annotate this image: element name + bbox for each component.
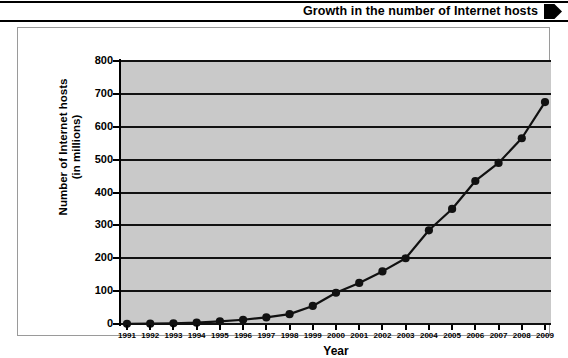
data-point-2001 (355, 279, 363, 287)
x-tick-mark-2003 (405, 325, 407, 330)
data-point-1997 (262, 313, 270, 321)
page-title: Growth in the number of Internet hosts (303, 3, 538, 19)
y-axis-title-line2: (in millions) (70, 57, 83, 237)
y-tick-label-0: 0 (73, 318, 113, 329)
y-tick-label-wrap: 400 (68, 187, 113, 198)
plot-area (121, 61, 551, 324)
y-tick-label-100: 100 (73, 285, 113, 296)
y-axis-title-line1: Number of Internet hosts (57, 57, 70, 237)
x-tick-mark-2007 (498, 325, 500, 330)
chart-title-banner: Growth in the number of Internet hosts (0, 0, 568, 22)
data-point-2009 (541, 98, 549, 106)
y-tick-mark-600 (113, 126, 120, 128)
y-tick-mark-700 (113, 93, 120, 95)
data-point-1996 (239, 316, 247, 324)
x-tick-label-2009: 2009 (528, 331, 562, 340)
y-axis-title: Number of Internet hosts (in millions) (57, 57, 83, 237)
x-tick-mark-2004 (428, 325, 430, 330)
y-tick-label-600: 600 (73, 121, 113, 132)
data-point-2005 (448, 205, 456, 213)
x-tick-mark-1996 (242, 325, 244, 330)
y-tick-label-700: 700 (73, 88, 113, 99)
y-tick-label-wrap: 500 (68, 154, 113, 165)
x-tick-mark-2002 (381, 325, 383, 330)
data-point-2008 (518, 134, 526, 142)
data-point-2000 (332, 289, 340, 297)
y-tick-label-wrap: 100 (68, 285, 113, 296)
y-tick-label-500: 500 (73, 154, 113, 165)
y-tick-label-wrap: 300 (68, 219, 113, 230)
data-series-line (121, 61, 551, 324)
y-tick-mark-200 (113, 257, 120, 259)
x-tick-mark-2006 (474, 325, 476, 330)
data-point-2007 (494, 159, 502, 167)
right-arrow-icon (544, 4, 562, 19)
data-point-2003 (402, 254, 410, 262)
x-tick-mark-1999 (312, 325, 314, 330)
y-tick-label-wrap: 700 (68, 88, 113, 99)
y-tick-label-800: 800 (73, 55, 113, 66)
data-point-1998 (285, 310, 293, 318)
x-tick-mark-2000 (335, 325, 337, 330)
x-tick-mark-1997 (265, 325, 267, 330)
x-tick-mark-2001 (358, 325, 360, 330)
y-tick-label-400: 400 (73, 187, 113, 198)
data-point-2004 (425, 226, 433, 234)
y-tick-mark-0 (113, 323, 120, 325)
y-tick-label-300: 300 (73, 219, 113, 230)
x-tick-mark-1994 (196, 325, 198, 330)
x-tick-mark-2005 (451, 325, 453, 330)
x-tick-mark-2008 (521, 325, 523, 330)
y-tick-mark-800 (113, 60, 120, 62)
y-tick-label-wrap: 0 (68, 318, 113, 329)
data-point-1999 (309, 302, 317, 310)
y-tick-label-wrap: 600 (68, 121, 113, 132)
x-tick-mark-1992 (149, 325, 151, 330)
x-axis-title: Year (121, 344, 551, 358)
y-tick-mark-100 (113, 290, 120, 292)
series-markers (123, 98, 549, 328)
data-point-2002 (378, 267, 386, 275)
x-tick-mark-1995 (219, 325, 221, 330)
y-tick-label-200: 200 (73, 252, 113, 263)
x-tick-mark-1991 (126, 325, 128, 330)
y-tick-mark-400 (113, 192, 120, 194)
chart-figure-frame: Number of Internet hosts (in millions) 0… (17, 27, 550, 336)
y-tick-label-wrap: 800 (68, 55, 113, 66)
data-point-2006 (471, 177, 479, 185)
x-tick-mark-1998 (289, 325, 291, 330)
y-tick-label-wrap: 200 (68, 252, 113, 263)
y-tick-mark-300 (113, 224, 120, 226)
x-tick-mark-2009 (544, 325, 546, 330)
title-rule-bottom (0, 20, 568, 22)
x-tick-mark-1993 (172, 325, 174, 330)
y-tick-mark-500 (113, 159, 120, 161)
